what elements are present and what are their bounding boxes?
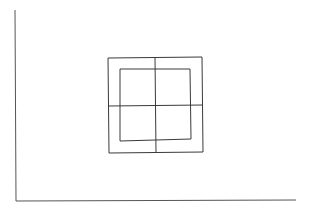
cross-horizontal-line [108,105,203,106]
diagram-canvas [0,0,312,212]
vertical-axis-line [15,10,16,201]
horizontal-axis-line [16,200,296,201]
